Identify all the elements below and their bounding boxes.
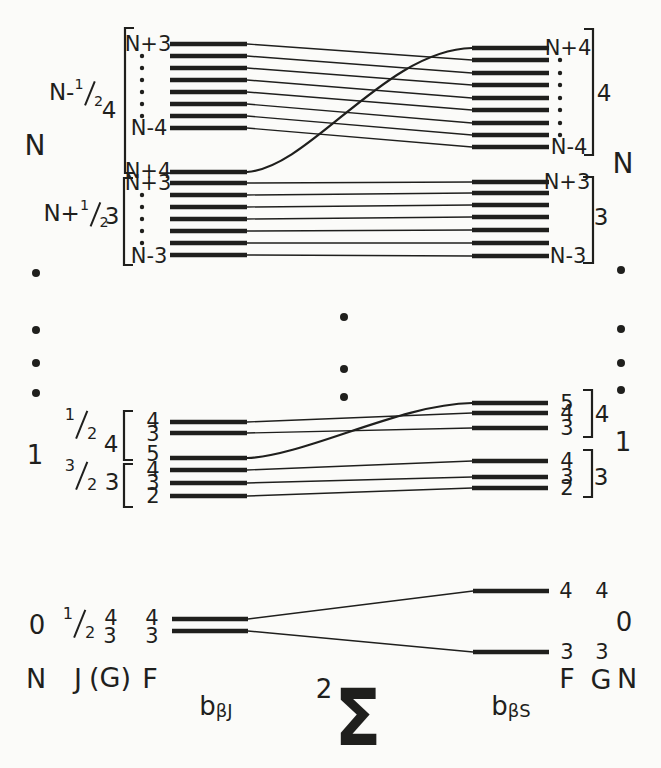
- j-label-top-group1: N-12: [49, 80, 103, 105]
- top-right-levels-g3: [472, 182, 549, 256]
- column-header-g-left: (G): [89, 664, 131, 691]
- top-left-levels-j-plus-half: [170, 183, 247, 255]
- f-label-right: 3: [560, 418, 573, 439]
- j-label-top-group2: N+12: [43, 201, 108, 226]
- j-prefix: N+: [43, 202, 79, 225]
- g-label-mid-groupA: 4: [104, 433, 119, 456]
- bottom-connectors: [248, 591, 473, 652]
- level-label-left: N+3: [125, 34, 172, 55]
- mid-left-levels: [170, 422, 247, 496]
- top-right-levels-g4: [472, 48, 549, 147]
- level-label-right: N-4: [551, 137, 588, 158]
- g-label-bottom-right: 3: [595, 642, 608, 663]
- continuation-dots: [32, 266, 625, 401]
- level-label-left: N-3: [131, 246, 168, 267]
- level-label-left: N-4: [131, 118, 168, 139]
- j-label-bottom: 12: [63, 610, 95, 639]
- zero-label-left: 0: [29, 612, 46, 638]
- level-label-right: N+4: [545, 38, 592, 59]
- n-label-right: N: [613, 150, 634, 178]
- j-prefix: N-: [49, 81, 75, 104]
- mid-connectors: [247, 413, 472, 496]
- one-label-right: 1: [615, 429, 632, 455]
- top-connectors: [247, 44, 472, 256]
- column-header-f-left: F: [142, 665, 158, 692]
- f-label-left: 2: [146, 486, 159, 507]
- fraction-slash: [75, 411, 87, 440]
- level-label-right: N+3: [544, 172, 591, 193]
- sigma-symbol: Σ: [335, 679, 382, 757]
- fraction-slash: [75, 462, 87, 491]
- n-label-left: N: [25, 132, 46, 160]
- basis-label-bbetaJ: bβJ: [199, 693, 232, 719]
- g-label-mid-right-groupA: 4: [595, 403, 610, 426]
- level-label-left: N+3: [125, 173, 172, 194]
- j-label-mid-groupA: 12: [65, 411, 97, 440]
- g-label-top-right-group1: 4: [597, 82, 612, 105]
- f-label-right: 2: [560, 478, 573, 499]
- g-label-top-group1: 4: [102, 99, 117, 122]
- one-label-left: 1: [27, 442, 44, 468]
- g-label-bottom-left: 3: [103, 626, 116, 647]
- g-label-mid-groupB: 3: [105, 471, 120, 494]
- g-label-top-right-group2: 3: [594, 206, 609, 229]
- column-header-n-left: N: [26, 665, 46, 692]
- bottom-levels: [172, 591, 549, 652]
- column-header-j: J: [74, 665, 82, 692]
- basis-label-bbetaS: bβS: [491, 693, 530, 719]
- state-superscript: 2: [316, 676, 333, 702]
- g-label-bottom-right: 4: [595, 581, 608, 602]
- f-label-bottom-left: 3: [145, 626, 158, 647]
- j-label-mid-groupB: 32: [65, 462, 97, 491]
- zero-label-right: 0: [616, 609, 633, 635]
- column-header-g-right: G: [591, 666, 612, 693]
- hyperfine-correlation-diagram: N N 1 1 0 0 N-12 4 N+3 N-4 N+4 N+4 N-4 4…: [0, 0, 661, 768]
- fraction-slash: [83, 80, 94, 105]
- f-label-bottom-right: 3: [560, 642, 573, 663]
- fraction-slash: [73, 610, 85, 639]
- f-label-bottom-right: 4: [559, 581, 572, 602]
- fraction-slash: [89, 201, 100, 226]
- column-header-n-right: N: [617, 665, 637, 692]
- mid-right-levels: [472, 403, 548, 488]
- column-header-f-right: F: [559, 665, 575, 692]
- g-label-top-group2: 3: [105, 205, 120, 228]
- top-left-levels-j-minus-half: [170, 44, 247, 172]
- top-crossing-curve: [247, 48, 472, 172]
- g-label-mid-right-groupB: 3: [594, 466, 609, 489]
- level-label-right: N-3: [550, 246, 587, 267]
- fraction: 12: [74, 80, 103, 105]
